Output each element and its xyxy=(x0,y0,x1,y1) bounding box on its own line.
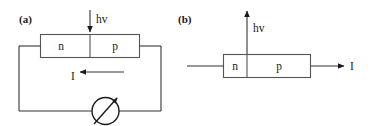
panel-a-p-region-label: p xyxy=(112,40,118,53)
panel-a: (a) hv n p xyxy=(19,10,161,125)
panel-b-n-region-label: n xyxy=(232,60,238,72)
panel-b-current-label: I xyxy=(350,60,354,72)
panel-a-photon-label: hv xyxy=(96,13,108,25)
panel-b-device: n p xyxy=(224,55,311,78)
pn-junction-figure: (a) hv n p xyxy=(0,0,371,126)
panel-a-galvanometer xyxy=(92,98,119,125)
panel-a-label: (a) xyxy=(19,13,32,26)
panel-a-device: n p xyxy=(41,35,140,58)
panel-b-p-region-label: p xyxy=(276,60,282,73)
panel-b-label: (b) xyxy=(178,13,192,26)
panel-a-current-label: I xyxy=(71,70,75,82)
panel-a-n-region-label: n xyxy=(58,40,64,52)
panel-b: (b) hv n p I xyxy=(178,11,354,78)
panel-b-photon-label: hv xyxy=(253,22,265,34)
figure-canvas: (a) hv n p xyxy=(0,0,371,126)
